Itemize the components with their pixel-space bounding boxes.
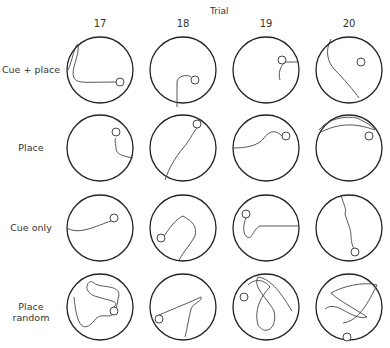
swim-path xyxy=(115,138,133,158)
platform-marker xyxy=(343,333,351,341)
platform-marker xyxy=(112,128,120,136)
swim-path xyxy=(341,195,355,250)
pool-3-0 xyxy=(67,274,133,340)
platform-marker xyxy=(365,132,373,140)
platform-marker xyxy=(193,120,201,128)
swim-path xyxy=(233,132,282,148)
pool-1-2 xyxy=(233,115,299,181)
pool-2-0 xyxy=(67,195,133,261)
platform-marker xyxy=(191,76,199,84)
swim-path xyxy=(248,277,292,330)
swim-path xyxy=(67,220,114,231)
swim-path xyxy=(74,282,119,327)
pool-outline xyxy=(316,37,382,103)
swim-path xyxy=(328,39,359,98)
pool-3-3 xyxy=(316,274,382,341)
pool-outline xyxy=(150,274,216,340)
pool-outline xyxy=(67,195,133,261)
pool-outline xyxy=(150,37,216,103)
swim-path xyxy=(165,128,197,180)
platform-marker xyxy=(110,307,118,315)
pool-0-3 xyxy=(316,37,382,103)
platform-marker xyxy=(155,315,163,323)
platform-marker xyxy=(351,248,359,256)
swim-path xyxy=(163,216,196,260)
platform-marker xyxy=(282,132,290,140)
pool-outline xyxy=(150,195,216,261)
pool-0-0 xyxy=(67,37,133,103)
pool-3-2 xyxy=(233,274,299,340)
pool-outline xyxy=(233,115,299,181)
swim-path xyxy=(244,218,299,238)
pool-1-0 xyxy=(67,115,133,181)
pool-1-1 xyxy=(150,115,216,181)
swim-path xyxy=(279,62,299,80)
swim-path-grid xyxy=(0,0,390,348)
platform-marker xyxy=(157,234,165,242)
swim-path xyxy=(325,284,377,323)
platform-marker xyxy=(110,214,118,222)
pool-outline xyxy=(67,274,133,340)
pool-outline xyxy=(233,195,299,261)
swim-path xyxy=(159,297,201,337)
platform-marker xyxy=(242,210,250,218)
platform-marker xyxy=(116,78,124,86)
pool-outline xyxy=(316,195,382,261)
pool-2-2 xyxy=(233,195,299,261)
pool-outline xyxy=(67,37,133,103)
pool-outline xyxy=(67,115,133,181)
pool-1-3 xyxy=(316,115,382,181)
swim-path xyxy=(68,44,120,82)
pool-2-1 xyxy=(150,195,216,261)
pool-outline xyxy=(233,37,299,103)
platform-marker xyxy=(240,293,248,301)
platform-marker xyxy=(357,58,365,66)
pool-0-1 xyxy=(150,37,216,107)
pool-3-1 xyxy=(150,274,216,340)
pool-0-2 xyxy=(233,37,299,103)
pool-2-3 xyxy=(316,195,382,261)
platform-marker xyxy=(278,56,286,64)
